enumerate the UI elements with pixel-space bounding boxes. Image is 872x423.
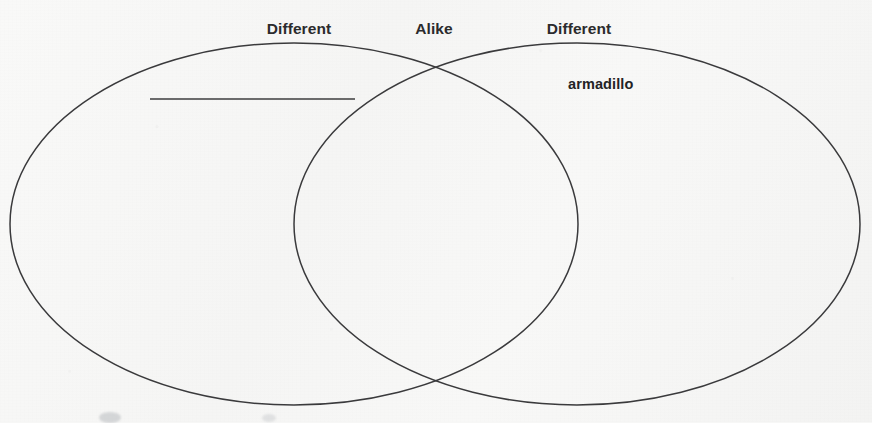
paper-smudge-left	[99, 412, 121, 423]
heading-different-right: Different	[547, 20, 612, 38]
heading-alike: Alike	[415, 20, 453, 38]
entry-armadillo: armadillo	[568, 76, 633, 92]
paper-smudge-center	[262, 414, 276, 422]
right-circle	[294, 43, 860, 405]
heading-different-left: Different	[267, 20, 332, 38]
